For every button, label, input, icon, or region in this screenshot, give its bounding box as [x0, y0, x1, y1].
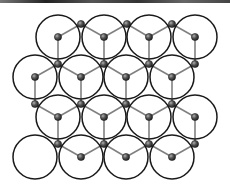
packing-circle: [13, 135, 57, 179]
junction-atom-icon: [191, 140, 198, 147]
junction-atom-icon: [191, 60, 198, 67]
junction-atom-icon: [100, 140, 107, 147]
center-atom-icon: [191, 113, 198, 120]
center-atom-icon: [145, 113, 152, 120]
junction-atom-icon: [100, 60, 107, 67]
junction-atom-icon: [145, 60, 152, 67]
center-atom-icon: [122, 73, 129, 80]
center-atom-icon: [77, 153, 84, 160]
junction-atom-icon: [54, 60, 61, 67]
bonds-layer: [35, 24, 195, 157]
center-atom-icon: [100, 113, 107, 120]
center-atom-icon: [54, 33, 61, 40]
center-atom-icon: [77, 73, 84, 80]
junction-atom-icon: [123, 20, 130, 27]
junction-atom-icon: [122, 100, 129, 107]
junction-atom-icon: [168, 20, 175, 27]
junction-atom-icon: [54, 140, 61, 147]
center-atom-icon: [122, 153, 129, 160]
junction-atom-icon: [77, 20, 84, 27]
center-atom-icon: [31, 73, 38, 80]
junction-atom-icon: [77, 100, 84, 107]
junction-atom-icon: [145, 140, 152, 147]
circles-layer: [13, 15, 217, 179]
junction-atom-icon: [31, 100, 38, 107]
center-atom-icon: [168, 73, 175, 80]
lattice-diagram: [0, 0, 230, 193]
center-atom-icon: [191, 33, 198, 40]
center-atom-icon: [54, 113, 61, 120]
center-atom-icon: [145, 33, 152, 40]
junction-atom-icon: [168, 100, 175, 107]
center-atom-icon: [168, 153, 175, 160]
center-atom-icon: [100, 33, 107, 40]
